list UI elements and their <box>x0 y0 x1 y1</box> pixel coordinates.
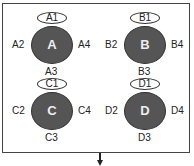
node-top-label: D1 <box>130 78 160 90</box>
node-circle: D <box>124 92 166 130</box>
node-bottom-label: C3 <box>45 133 58 143</box>
node-left-label: A2 <box>12 40 24 50</box>
node-right-label: B4 <box>171 40 183 50</box>
container-box <box>2 3 190 153</box>
node-top-label: C1 <box>37 78 67 90</box>
node-left-label: B2 <box>105 40 117 50</box>
node-bottom-label: A3 <box>45 67 57 77</box>
node-top-label: A1 <box>37 12 67 24</box>
node-left-label: D2 <box>105 106 118 116</box>
node-bottom-label: D3 <box>138 133 151 143</box>
node-top-label: B1 <box>130 12 160 24</box>
node-right-label: A4 <box>78 40 90 50</box>
node-circle: C <box>31 92 73 130</box>
node-right-label: C4 <box>78 106 91 116</box>
node-left-label: C2 <box>12 106 25 116</box>
node-circle: B <box>124 26 166 64</box>
node-circle: A <box>31 26 73 64</box>
node-bottom-label: B3 <box>138 67 150 77</box>
node-right-label: D4 <box>171 106 184 116</box>
down-arrow-icon <box>97 153 103 166</box>
